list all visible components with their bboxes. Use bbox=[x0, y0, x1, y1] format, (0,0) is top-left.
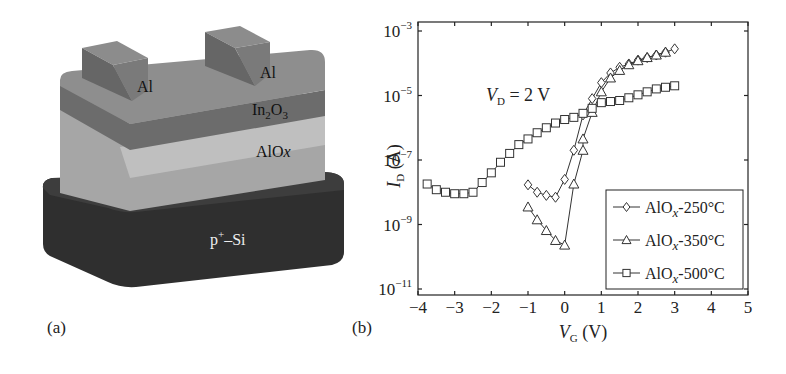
square-marker bbox=[506, 149, 514, 157]
diamond-marker bbox=[570, 145, 578, 155]
square-marker bbox=[542, 124, 550, 132]
square-marker bbox=[625, 94, 633, 102]
square-marker bbox=[469, 188, 477, 196]
square-marker bbox=[524, 135, 532, 143]
square-marker bbox=[432, 186, 440, 194]
triangle-marker bbox=[523, 202, 533, 211]
diamond-marker bbox=[561, 174, 569, 184]
series-line bbox=[427, 86, 675, 194]
square-marker bbox=[671, 82, 679, 90]
square-marker bbox=[634, 91, 642, 99]
panel-a-label: (a) bbox=[47, 318, 66, 337]
square-marker bbox=[652, 85, 660, 93]
triangle-marker bbox=[606, 73, 616, 82]
square-marker bbox=[478, 179, 486, 187]
diamond-marker bbox=[671, 44, 679, 54]
x-tick-label: −3 bbox=[446, 298, 464, 317]
y-axis-title: ID (A) bbox=[384, 144, 406, 188]
x-tick-label: −4 bbox=[409, 298, 428, 317]
square-marker bbox=[487, 169, 495, 177]
y-tick-label: 10−5 bbox=[383, 84, 412, 106]
x-tick-label: 1 bbox=[597, 298, 606, 317]
x-tick-label: −2 bbox=[482, 298, 500, 317]
x-tick-label: 0 bbox=[560, 298, 569, 317]
triangle-marker bbox=[578, 145, 588, 154]
square-marker bbox=[561, 116, 569, 124]
square-marker bbox=[497, 158, 505, 166]
label-al-right: Al bbox=[260, 64, 277, 81]
diamond-marker bbox=[524, 180, 532, 190]
square-marker bbox=[442, 188, 450, 196]
x-tick-label: 5 bbox=[744, 298, 753, 317]
y-tick-label: 10−9 bbox=[383, 213, 412, 235]
label-al-left: Al bbox=[137, 78, 154, 95]
series-line bbox=[528, 49, 675, 197]
y-tick-label: 10−11 bbox=[378, 277, 412, 299]
panel-b-label: (b) bbox=[352, 318, 372, 337]
series-diamond bbox=[524, 44, 678, 202]
square-marker bbox=[643, 88, 651, 96]
y-tick-label: 10−3 bbox=[383, 19, 412, 41]
square-marker bbox=[623, 269, 630, 276]
square-marker bbox=[597, 99, 605, 107]
x-tick-label: 2 bbox=[634, 298, 643, 317]
square-marker bbox=[460, 190, 468, 198]
panel-b-chart: (b) 10−310−510−710−910−11 −4−3−2−1012345… bbox=[352, 19, 752, 344]
legend: AlOx-250°CAlOx-350°CAlOx-500°C bbox=[606, 190, 743, 289]
diamond-marker bbox=[533, 187, 541, 197]
vd-annotation: VD = 2 V bbox=[486, 85, 550, 107]
diamond-marker bbox=[552, 192, 560, 202]
x-tick-label: 4 bbox=[707, 298, 716, 317]
triangle-marker bbox=[578, 134, 588, 143]
square-marker bbox=[451, 190, 459, 198]
square-marker bbox=[579, 109, 587, 117]
figure: Al Al In2O3 AlOx p+–Si (a) (b) 10−310−51… bbox=[0, 0, 786, 374]
square-marker bbox=[423, 180, 431, 188]
x-tick-label: −1 bbox=[519, 298, 537, 317]
square-marker bbox=[616, 96, 624, 104]
series-square bbox=[423, 82, 679, 198]
triangle-marker bbox=[569, 179, 579, 188]
panel-a-device-schematic: Al Al In2O3 AlOx p+–Si (a) bbox=[43, 26, 344, 337]
square-marker bbox=[662, 83, 670, 91]
triangle-marker bbox=[532, 215, 542, 224]
square-marker bbox=[533, 129, 541, 137]
triangle-marker bbox=[560, 240, 570, 249]
square-marker bbox=[515, 141, 523, 149]
square-marker bbox=[588, 104, 596, 112]
label-p-si: p+–Si bbox=[210, 228, 246, 249]
square-marker bbox=[570, 113, 578, 121]
diamond-marker bbox=[543, 190, 551, 200]
diamond-marker bbox=[588, 94, 596, 104]
square-marker bbox=[607, 98, 615, 106]
x-tick-label: 3 bbox=[670, 298, 679, 317]
square-marker bbox=[552, 119, 560, 127]
label-alox: AlOx bbox=[256, 143, 291, 160]
x-axis-title: VG (V) bbox=[559, 322, 607, 344]
